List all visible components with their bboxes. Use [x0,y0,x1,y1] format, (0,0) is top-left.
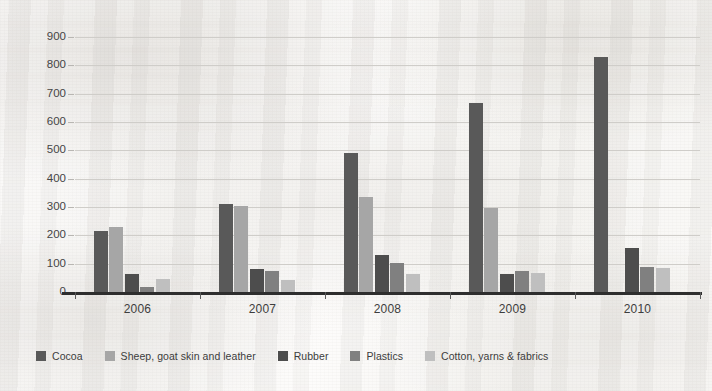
legend-item[interactable]: Rubber [278,350,329,362]
y-axis-tick-label: 200 [0,229,66,241]
y-axis-tick-mark [68,65,74,66]
y-axis-tick-label: 500 [0,144,66,156]
x-axis-tick-label: 2010 [575,302,700,316]
bar[interactable] [484,208,498,292]
bar[interactable] [265,271,279,292]
bar-group [344,37,420,292]
x-axis-tick-mark [325,292,326,299]
y-axis-tick-label: 100 [0,258,66,270]
bar[interactable] [375,255,389,292]
y-axis-tick-label: 0 [0,286,66,298]
y-axis-tick-label: 700 [0,88,66,100]
y-axis-tick-label: 800 [0,59,66,71]
grouped-bar-chart: 0100200300400500600700800900 20062007200… [0,0,712,391]
bar[interactable] [156,279,170,292]
bar[interactable] [640,267,654,292]
bar[interactable] [656,268,670,292]
legend-item[interactable]: Plastics [350,350,403,362]
bar[interactable] [234,206,248,292]
y-axis-tick-mark [68,150,74,151]
legend-label: Rubber [294,350,329,362]
y-axis-tick-mark [68,94,74,95]
plot-area [75,37,700,292]
legend-item[interactable]: Cocoa [36,350,83,362]
x-axis-tick-label: 2009 [450,302,575,316]
y-axis-tick-mark [68,235,74,236]
y-axis-tick-mark [68,264,74,265]
y-axis-tick-label: 600 [0,116,66,128]
bar[interactable] [531,273,545,292]
bar-group [594,37,670,292]
bar[interactable] [281,280,295,292]
bar-group [469,37,545,292]
y-axis-labels: 0100200300400500600700800900 [0,37,66,292]
legend-label: Sheep, goat skin and leather [121,350,256,362]
bar[interactable] [125,274,139,292]
y-axis-tick-mark [68,207,74,208]
y-axis-tick-label: 300 [0,201,66,213]
bar[interactable] [109,227,123,292]
x-axis-tick-mark [575,292,576,299]
bar-group [219,37,295,292]
bar[interactable] [594,57,608,292]
x-axis-line [62,292,702,295]
bar[interactable] [406,274,420,292]
legend-swatch-icon [278,351,288,361]
bar[interactable] [344,153,358,292]
legend-swatch-icon [36,351,46,361]
x-axis-tick-mark [75,292,76,299]
legend-item[interactable]: Sheep, goat skin and leather [105,350,256,362]
legend-swatch-icon [425,351,435,361]
y-axis-tick-mark [68,37,74,38]
legend-label: Plastics [366,350,403,362]
x-axis-tick-label: 2007 [200,302,325,316]
bar[interactable] [469,103,483,292]
x-axis-tick-mark [700,292,701,299]
x-axis-tick-mark [450,292,451,299]
chart-legend: CocoaSheep, goat skin and leatherRubberP… [36,350,570,362]
legend-item[interactable]: Cotton, yarns & fabrics [425,350,548,362]
bar[interactable] [359,197,373,292]
bar[interactable] [94,231,108,292]
x-axis-tick-mark [200,292,201,299]
x-axis-tick-label: 2006 [75,302,200,316]
legend-swatch-icon [350,351,360,361]
legend-swatch-icon [105,351,115,361]
bar[interactable] [515,271,529,292]
bar[interactable] [625,248,639,292]
y-axis-tick-mark [68,122,74,123]
bar[interactable] [500,274,514,292]
bar[interactable] [219,204,233,292]
bar-group [94,37,170,292]
x-axis-tick-label: 2008 [325,302,450,316]
bar[interactable] [390,263,404,292]
bar[interactable] [250,269,264,292]
legend-label: Cocoa [52,350,83,362]
legend-label: Cotton, yarns & fabrics [441,350,548,362]
y-axis-tick-label: 400 [0,173,66,185]
y-axis-tick-label: 900 [0,31,66,43]
y-axis-tick-mark [68,179,74,180]
